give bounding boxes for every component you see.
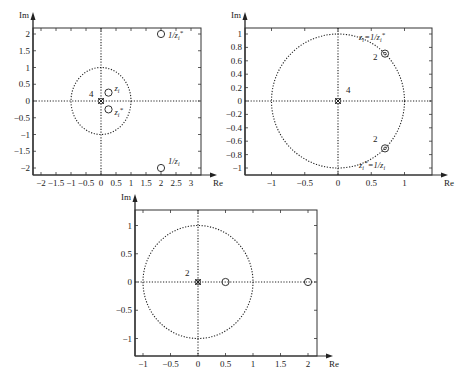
y-tick-label: −0.2 <box>226 109 242 119</box>
x-tick-label: 1.5 <box>275 359 287 369</box>
x-tick-label: −1 <box>267 178 277 188</box>
point-annotation: zi* =1/zi <box>358 159 385 171</box>
y-tick-label: 0.2 <box>231 83 242 93</box>
x-tick-label: −0.5 <box>162 359 179 369</box>
multiplicity-label: 2 <box>373 134 378 144</box>
y-axis-arrow-icon <box>133 194 138 202</box>
x-axis-arrow-icon <box>441 173 448 178</box>
y-tick-label: −1.5 <box>14 146 31 156</box>
x-tick-label: −0.5 <box>297 178 314 188</box>
y-axis-label: Im <box>121 192 131 202</box>
x-tick-label: 3 <box>189 178 194 188</box>
pole-zero-plot-3: ReIm−1−0.500.511.5210.50−0.5−12 <box>116 192 339 369</box>
point-annotation: 1/zi <box>168 156 180 167</box>
y-tick-label: 0 <box>26 96 31 106</box>
y-tick-label: −1 <box>232 163 242 173</box>
x-tick-label: −1.5 <box>48 178 65 188</box>
x-tick-label: 2.5 <box>170 178 182 188</box>
x-tick-label: 1.5 <box>140 178 152 188</box>
x-axis-arrow-icon <box>210 173 217 178</box>
zero-marker-icon <box>304 278 311 285</box>
x-tick-label: 2 <box>159 178 164 188</box>
x-axis-arrow-icon <box>326 354 333 359</box>
pole-zero-plot-1: ReIm−2−1.5−1−0.500.511.522.5321.510.50−0… <box>14 10 223 188</box>
multiplicity-label: 4 <box>89 89 94 99</box>
x-tick-label: 1 <box>129 178 134 188</box>
x-tick-label: −2 <box>36 178 46 188</box>
y-tick-label: 1 <box>238 29 243 39</box>
y-tick-label: −1 <box>122 334 132 344</box>
y-tick-label: 0.5 <box>121 249 133 259</box>
x-tick-label: 0.5 <box>220 359 232 369</box>
point-annotation: 1/zi* <box>168 29 184 41</box>
y-tick-label: 0.4 <box>231 69 243 79</box>
y-tick-label: −1 <box>20 130 30 140</box>
y-tick-label: 1.5 <box>19 46 31 56</box>
x-tick-label: −1 <box>138 359 148 369</box>
y-tick-label: −2 <box>20 163 30 173</box>
pole-zero-figure: ReIm−2−1.5−1−0.500.511.522.5321.510.50−0… <box>0 0 463 379</box>
axes-frame <box>135 210 317 356</box>
y-tick-label: 0.5 <box>19 79 31 89</box>
point-annotation: zi* <box>114 106 124 118</box>
multiplicity-label: 2 <box>373 52 378 62</box>
zero-marker-icon <box>105 106 112 113</box>
y-axis-arrow-icon <box>243 12 248 20</box>
y-axis-arrow-icon <box>31 12 36 20</box>
zero-marker-icon <box>381 50 388 57</box>
x-tick-label: 0 <box>336 178 341 188</box>
y-tick-label: 1 <box>26 63 31 73</box>
x-tick-label: 2 <box>306 359 311 369</box>
y-tick-label: 2 <box>26 29 31 39</box>
y-tick-label: 0.8 <box>231 42 243 52</box>
x-axis-label: Re <box>213 178 223 188</box>
multiplicity-label: 2 <box>185 268 190 278</box>
x-tick-label: 1 <box>251 359 256 369</box>
y-tick-label: −0.4 <box>226 123 243 133</box>
x-tick-label: −1 <box>66 178 76 188</box>
y-tick-label: 0 <box>128 277 133 287</box>
x-tick-label: 1 <box>402 178 407 188</box>
y-tick-label: −0.5 <box>116 305 133 315</box>
point-annotation: zi =1/zi* <box>358 31 386 43</box>
y-tick-label: −0.5 <box>14 113 31 123</box>
zero-marker-icon <box>105 89 112 96</box>
y-tick-label: 0.6 <box>231 56 243 66</box>
y-tick-label: 0 <box>238 96 243 106</box>
multiplicity-label: 4 <box>346 85 351 95</box>
y-tick-label: −0.6 <box>226 136 243 146</box>
point-annotation: zi <box>114 83 120 94</box>
pole-zero-plot-2: ReIm−1−0.500.5110.80.60.40.20−0.2−0.4−0.… <box>226 10 454 188</box>
x-tick-label: 0 <box>99 178 104 188</box>
zero-marker-icon <box>381 145 388 152</box>
x-tick-label: −0.5 <box>78 178 95 188</box>
zero-marker-icon <box>157 30 164 37</box>
x-tick-label: 0.5 <box>366 178 378 188</box>
y-tick-label: −0.8 <box>226 150 243 160</box>
y-axis-label: Im <box>19 10 29 20</box>
zero-marker-icon <box>157 164 164 171</box>
x-axis-label: Re <box>329 359 339 369</box>
y-axis-label: Im <box>231 10 241 20</box>
x-tick-label: 0 <box>196 359 201 369</box>
y-tick-label: 1 <box>128 221 133 231</box>
x-axis-label: Re <box>444 178 454 188</box>
x-tick-label: 0.5 <box>110 178 122 188</box>
